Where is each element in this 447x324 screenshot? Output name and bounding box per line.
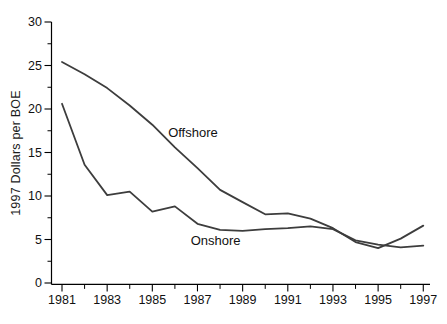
onshore-series-line [62,104,423,248]
x-tick-label: 1981 [48,293,76,307]
x-tick-label: 1993 [319,293,347,307]
x-tick-label: 1991 [274,293,302,307]
y-tick-label: 15 [28,146,42,160]
y-tick-label: 25 [28,59,42,73]
x-tick-label: 1985 [138,293,166,307]
y-tick-label: 0 [35,276,42,290]
y-tick-label: 5 [35,233,42,247]
x-tick-label: 1995 [364,293,392,307]
y-tick-label: 10 [28,189,42,203]
x-tick-label: 1987 [184,293,212,307]
y-tick-label: 20 [28,102,42,116]
chart: 1997 Dollars per BOE 0510152025301981198… [0,0,447,324]
x-tick-label: 1989 [229,293,257,307]
plot-area: 0510152025301981198319851987198919911993… [0,0,447,324]
y-tick-label: 30 [28,15,42,29]
x-tick-label: 1997 [409,293,437,307]
offshore-series-line [62,62,423,248]
onshore-series-label: Onshore [191,233,241,248]
offshore-series-label: Offshore [168,125,218,140]
x-tick-label: 1983 [93,293,121,307]
